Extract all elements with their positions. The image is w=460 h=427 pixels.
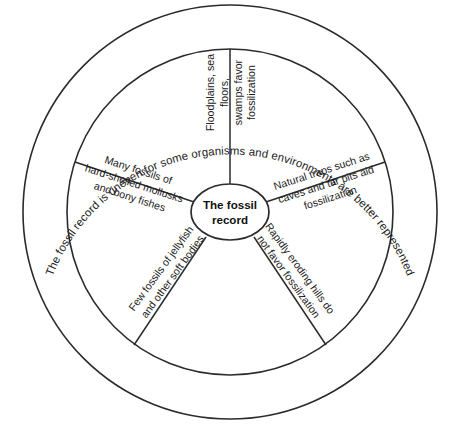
fossil-record-diagram: The fossil record The fossil record is u… xyxy=(0,0,460,427)
hub-label-line1: The fossil xyxy=(203,198,257,211)
spoke-lower-left xyxy=(134,237,206,345)
hub-label-line2: record xyxy=(212,213,248,226)
hub-ellipse xyxy=(191,184,269,240)
diagram-canvas: The fossil record The fossil record is u… xyxy=(0,0,460,427)
spoke-lower-right xyxy=(254,237,326,345)
